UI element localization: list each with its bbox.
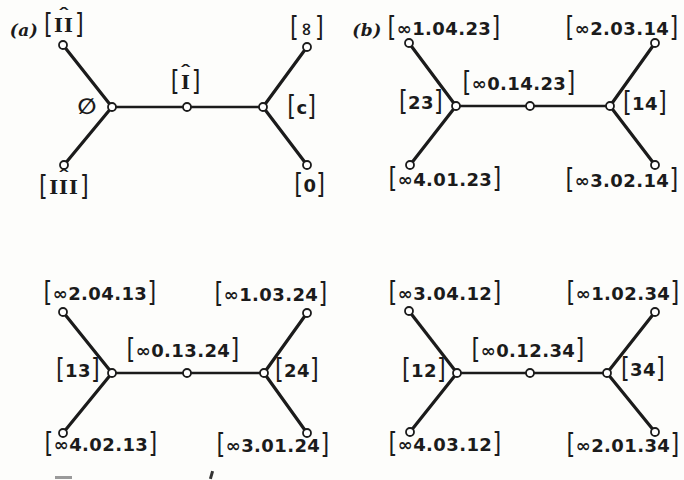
label-c-node-right: [24] xyxy=(275,358,320,383)
bracket-left: [ xyxy=(127,337,136,362)
hat-accent: ˆ xyxy=(58,170,71,185)
tree-node-m xyxy=(526,369,534,377)
figure-page: (a) [ˆII] ∅ [ˆI] [c] [∞] [ˆIII] [0] (b) … xyxy=(0,0,684,480)
panel-c: [∞2.04.13] [13] [∞0.13.24] [24] [∞1.03.2… xyxy=(0,240,342,480)
tree-node-r xyxy=(606,102,614,110)
bracket-right: ] xyxy=(669,167,678,192)
bracket-left: [ xyxy=(621,356,630,381)
bracket-right: ] xyxy=(318,281,327,306)
tree-node-m xyxy=(183,369,191,377)
label-text: ∞0.14.23 xyxy=(472,75,567,93)
label-d-leaf-bottom-right: [∞2.01.34] xyxy=(566,433,679,458)
hat-accent: ˆ xyxy=(58,8,71,23)
label-a-node-right: [c] xyxy=(287,95,317,120)
bracket-left: [ xyxy=(402,357,411,382)
tree-node-r xyxy=(259,103,267,111)
label-text: ∞1.03.24 xyxy=(224,286,319,304)
label-text: 34 xyxy=(630,361,656,379)
label-text: 23 xyxy=(408,94,434,112)
bracket-right: ] xyxy=(75,12,84,37)
label-text: c xyxy=(296,99,307,117)
tree-node-tl xyxy=(59,308,67,316)
label-b-leaf-top-left: [∞1.04.23] xyxy=(387,16,500,41)
label-text: ∞0.12.34 xyxy=(481,342,576,360)
label-b-node-left: [23] xyxy=(399,90,444,115)
label-d-node-left: [12] xyxy=(402,358,447,383)
tree-node-r xyxy=(603,369,611,377)
tree-node-tr xyxy=(651,308,659,316)
label-text: ∞2.01.34 xyxy=(576,437,671,455)
bracket-left: [ xyxy=(389,280,398,305)
bracket-right: ] xyxy=(492,166,501,191)
label-b-leaf-bottom-right: [∞3.02.14] xyxy=(565,168,678,193)
panel-b-tag: (b) xyxy=(352,20,381,40)
bracket-right: ] xyxy=(670,280,679,305)
bracket-right: ] xyxy=(91,357,100,382)
bracket-left: [ xyxy=(44,12,53,37)
label-d-node-middle: [∞0.12.34] xyxy=(471,338,584,363)
bracket-right: ] xyxy=(230,337,239,362)
bracket-left: [ xyxy=(566,167,575,192)
bracket-right: ] xyxy=(310,357,319,382)
label-text: ∞3.02.14 xyxy=(575,172,670,190)
label-a-leaf-top-right: [∞] xyxy=(290,16,324,41)
tree-node-tr xyxy=(303,43,311,51)
bracket-left: [ xyxy=(389,166,398,191)
tree-node-tl xyxy=(405,307,413,315)
label-a-leaf-top-left: [ˆII] xyxy=(44,13,84,38)
bracket-left: [ xyxy=(294,172,303,197)
panel-d: [∞3.04.12] [12] [∞0.12.34] [34] [∞1.02.3… xyxy=(342,240,684,480)
bracket-right: ] xyxy=(308,94,317,119)
caption-fragment xyxy=(55,476,72,479)
bracket-right: ] xyxy=(492,431,501,456)
label-text-wrap: ˆIII xyxy=(48,179,80,198)
label-b-node-right: [14] xyxy=(623,91,668,116)
bracket-left: [ xyxy=(623,90,632,115)
hat-accent: ˆ xyxy=(180,65,193,80)
label-text: 24 xyxy=(284,362,310,380)
bracket-left: [ xyxy=(275,357,284,382)
label-a-node-left: ∅ xyxy=(77,96,96,118)
label-text: 0 xyxy=(304,177,317,195)
label-text: ∞ xyxy=(298,21,316,36)
bracket-right: ] xyxy=(434,89,443,114)
label-text: ∞3.04.12 xyxy=(398,285,493,303)
bracket-left: [ xyxy=(44,280,53,305)
panel-b: (b) [∞1.04.23] [23] [∞0.14.23] [14] [∞2.… xyxy=(342,0,684,240)
bracket-left: [ xyxy=(567,432,576,457)
label-text: ∞4.01.23 xyxy=(398,171,493,189)
tree-node-l xyxy=(452,102,460,110)
label-text: ∞1.02.34 xyxy=(576,285,671,303)
label-text: ∞2.03.14 xyxy=(575,20,670,38)
label-d-leaf-top-right: [∞1.02.34] xyxy=(566,281,679,306)
label-text: ∞0.13.24 xyxy=(136,342,231,360)
bracket-right: ] xyxy=(491,15,500,40)
tree-node-l xyxy=(453,369,461,377)
label-c-leaf-bottom-right: [∞3.01.24] xyxy=(216,433,329,458)
panel-a: (a) [ˆII] ∅ [ˆI] [c] [∞] [ˆIII] [0] xyxy=(0,0,342,240)
label-b-leaf-bottom-left: [∞4.01.23] xyxy=(388,167,501,192)
label-text: ∞3.01.24 xyxy=(226,437,321,455)
bracket-left: [ xyxy=(39,174,48,199)
bracket-left: [ xyxy=(463,70,472,95)
bracket-right: ] xyxy=(658,90,667,115)
bracket-right: ] xyxy=(670,432,679,457)
bracket-left: [ xyxy=(217,432,226,457)
bracket-right: ] xyxy=(80,174,89,199)
label-text-wrap: ˆI xyxy=(180,74,192,93)
tree-node-l xyxy=(108,369,116,377)
label-c-node-middle: [∞0.13.24] xyxy=(126,338,239,363)
bracket-right: ] xyxy=(669,15,678,40)
bracket-right: ] xyxy=(148,431,157,456)
label-text: ∞1.04.23 xyxy=(397,20,492,38)
bracket-left: [ xyxy=(215,281,224,306)
tree-node-m xyxy=(526,102,534,110)
bracket-right: ] xyxy=(315,15,324,40)
tree-node-tr xyxy=(303,309,311,317)
label-c-leaf-bottom-left: [∞4.02.13] xyxy=(44,432,157,457)
tree-node-m xyxy=(183,103,191,111)
bracket-left: [ xyxy=(45,431,54,456)
label-text: ∞2.04.13 xyxy=(53,285,148,303)
bracket-left: [ xyxy=(566,15,575,40)
bracket-right: ] xyxy=(492,280,501,305)
